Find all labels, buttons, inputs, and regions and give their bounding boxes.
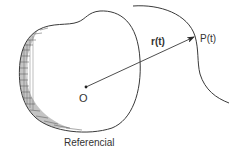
position-vector-diagram: O r(t) P(t) Referencial bbox=[0, 0, 242, 156]
origin-label: O bbox=[79, 92, 88, 104]
reference-frame-shape bbox=[19, 11, 140, 132]
shading-hatch bbox=[19, 28, 82, 130]
reference-frame-label: Referencial bbox=[64, 137, 115, 148]
point-label: P(t) bbox=[200, 33, 216, 44]
trajectory-curve bbox=[133, 6, 229, 103]
position-vector-label: r(t) bbox=[151, 36, 165, 47]
origin-point bbox=[85, 86, 88, 89]
